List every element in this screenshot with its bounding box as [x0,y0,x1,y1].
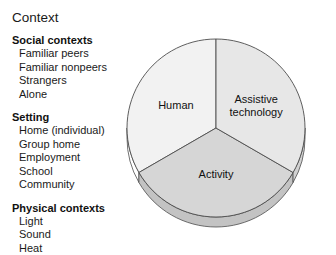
slice-label-human: Human [158,99,193,111]
list-item: Heat [19,242,132,255]
group-heading-setting: Setting [12,110,132,124]
context-text-column: Context Social contexts Familiar peers F… [12,9,132,255]
page-title: Context [12,9,132,26]
list-item: Community [19,178,132,192]
list-item: Sound [19,228,132,242]
group-heading-physical: Physical contexts [12,201,132,215]
context-group-social: Social contexts Familiar peers Familiar … [12,33,132,101]
list-item: Employment [19,151,132,165]
context-group-physical: Physical contexts Light Sound Heat [12,201,132,255]
slice-label-assistive-technology: Assistivetechnology [229,93,283,118]
list-item: Familiar peers [19,47,132,61]
pie-chart: HumanActivityAssistivetechnology [124,14,324,250]
group-heading-social: Social contexts [12,33,132,47]
context-group-setting: Setting Home (individual) Group home Emp… [12,110,132,192]
pie-slices [127,39,305,217]
pie-chart-svg: HumanActivityAssistivetechnology [124,14,324,250]
list-item: School [19,165,132,179]
list-item: Alone [19,88,132,102]
group-list-physical: Light Sound Heat [12,215,132,255]
slice-label-activity: Activity [199,168,234,180]
figure-canvas: Context Social contexts Familiar peers F… [0,0,336,255]
list-item: Home (individual) [19,124,132,138]
list-item: Strangers [19,74,132,88]
list-item: Familiar nonpeers [19,61,132,75]
group-list-setting: Home (individual) Group home Employment … [12,124,132,192]
group-list-social: Familiar peers Familiar nonpeers Strange… [12,47,132,101]
list-item: Light [19,215,132,229]
list-item: Group home [19,138,132,152]
